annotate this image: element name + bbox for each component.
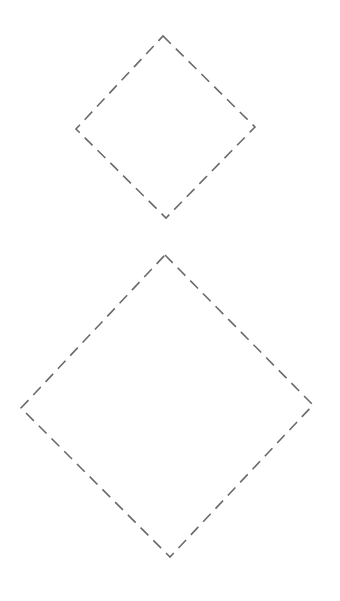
small-diamond-shape <box>76 36 255 218</box>
large-diamond-shape <box>21 255 313 557</box>
diagram-canvas <box>0 0 340 601</box>
